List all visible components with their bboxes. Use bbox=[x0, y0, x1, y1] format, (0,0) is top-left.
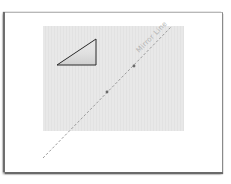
point-marker bbox=[106, 91, 109, 94]
canvas: Mirror Line bbox=[0, 0, 231, 184]
reflection-diagram: Mirror Line bbox=[0, 0, 231, 184]
point-marker bbox=[133, 65, 136, 68]
grid-panel bbox=[43, 26, 184, 131]
